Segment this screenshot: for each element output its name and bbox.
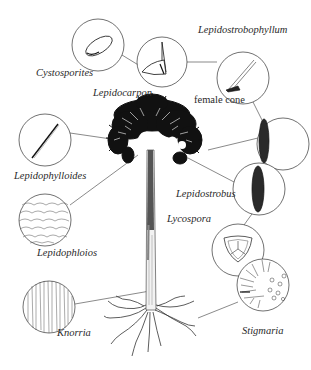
- circle-lepidocarpon: [137, 37, 187, 87]
- label-lepidophloios: Lepidophloios: [37, 248, 97, 259]
- circle-lepidostrobus: [233, 163, 285, 215]
- tree-trunk: [146, 150, 156, 310]
- label-lepidostrobophyllum: Lepidostrobophyllum: [198, 25, 287, 36]
- circle-stigmaria: [237, 259, 289, 311]
- circle-female-cone: [257, 118, 309, 170]
- label-lepidophylloides: Lepidophylloides: [14, 171, 86, 182]
- diagram-artwork: [0, 0, 311, 370]
- connector-lepidostrobus: [188, 158, 234, 182]
- label-stigmaria: Stigmaria: [242, 326, 283, 337]
- connector-female-cone: [208, 138, 258, 150]
- circle-knorria: [23, 281, 75, 333]
- circle-lepidophylloides: [19, 114, 71, 166]
- label-lycospora: Lycospora: [167, 214, 211, 225]
- lepidodendron-diagram: Cystosporites Lepidocarpon Lepidostrobop…: [0, 0, 311, 370]
- circle-cystosporites: [72, 19, 124, 71]
- label-cystosporites: Cystosporites: [36, 68, 93, 79]
- connector-stigmaria: [198, 302, 238, 318]
- label-knorria: Knorria: [57, 328, 91, 339]
- label-lepidostrobus: Lepidostrobus: [176, 189, 236, 200]
- label-lepidocarpon: Lepidocarpon: [93, 88, 152, 99]
- circle-lepidophloios: [19, 194, 71, 246]
- label-female-cone: female cone: [194, 95, 245, 106]
- connector-lepidostrobophyllum-female-cone: [253, 102, 262, 120]
- connector-knorria: [75, 291, 150, 304]
